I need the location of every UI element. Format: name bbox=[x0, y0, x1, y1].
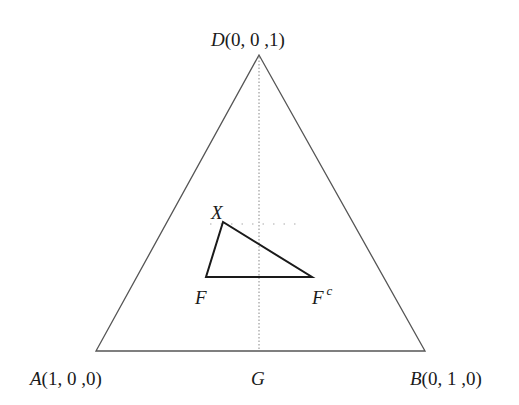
vertex-a-label: A(1, 0 ,0) bbox=[28, 368, 102, 390]
point-g-label: G bbox=[251, 368, 265, 389]
vertex-b-label: B(0, 1 ,0) bbox=[410, 368, 482, 390]
vertex-d-label: D(0, 0 ,1) bbox=[210, 29, 285, 51]
outer-triangle bbox=[96, 55, 425, 351]
ternary-diagram: D(0, 0 ,1) A(1, 0 ,0) B(0, 1 ,0) G X F F… bbox=[0, 0, 519, 405]
point-f-label: F bbox=[194, 287, 207, 308]
point-x-label: X bbox=[210, 202, 224, 223]
point-fc-label: Fc bbox=[311, 283, 333, 308]
